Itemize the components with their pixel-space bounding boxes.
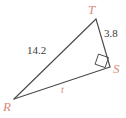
vertex-label-T: T xyxy=(88,3,95,16)
vertex-label-R: R xyxy=(3,100,11,113)
side-length-label-RS: t xyxy=(61,85,64,95)
side-RT-line xyxy=(14,19,96,99)
side-length-label-TS: 3.8 xyxy=(104,28,118,39)
vertex-label-S: S xyxy=(113,62,120,75)
geometry-figure: T S R 14.2 3.8 t xyxy=(0,0,126,118)
side-length-label-RT: 14.2 xyxy=(27,45,46,56)
triangle-drawing xyxy=(0,0,126,118)
